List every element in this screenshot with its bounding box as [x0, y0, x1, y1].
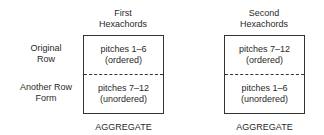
right-header: Second Hexachords	[224, 8, 304, 30]
left-header: First Hexachords	[83, 8, 163, 30]
left-top-cell: pitches 1–6 (ordered)	[84, 44, 163, 66]
dashed-divider	[84, 74, 163, 75]
row-label-original: Original Row	[14, 43, 78, 65]
right-bottom-cell: pitches 1–6 (unordered)	[225, 83, 304, 105]
right-footer: AGGREGATE	[224, 122, 305, 133]
right-hexachord-box: pitches 7–12 (ordered) pitches 1–6 (unor…	[224, 35, 305, 114]
left-footer: AGGREGATE	[83, 122, 164, 133]
left-hexachord-box: pitches 1–6 (ordered) pitches 7–12 (unor…	[83, 35, 164, 114]
dashed-divider	[225, 74, 304, 75]
row-label-another: Another Row Form	[14, 82, 78, 104]
left-bottom-cell: pitches 7–12 (unordered)	[84, 83, 163, 105]
right-top-cell: pitches 7–12 (ordered)	[225, 44, 304, 66]
